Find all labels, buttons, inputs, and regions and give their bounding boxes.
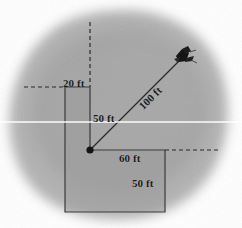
label-bottom-width: 60 ft [119, 153, 141, 164]
vertex-dot-icon [86, 146, 93, 153]
label-top-width: 20 ft [63, 78, 85, 89]
label-vertical-side: 50 ft [93, 113, 115, 124]
diagram-svg [0, 0, 242, 228]
label-bottom-height: 50 ft [132, 178, 154, 189]
diagram-canvas: 20 ft 50 ft 60 ft 50 ft 100 ft [0, 0, 242, 228]
